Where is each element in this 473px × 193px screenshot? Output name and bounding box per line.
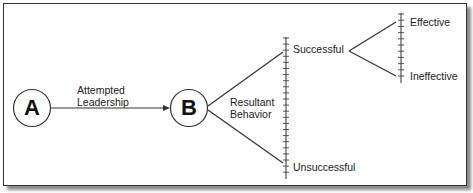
outcome-ineffective: Ineffective — [410, 70, 458, 82]
branch-label-resultant: Resultant — [230, 96, 274, 108]
outcome-effective: Effective — [410, 16, 450, 28]
node-b: B — [170, 89, 208, 127]
node-a: A — [13, 89, 51, 127]
branch-label-behavior: Behavior — [230, 108, 271, 120]
edge-label-leadership: Leadership — [77, 96, 129, 108]
outcome-unsuccessful: Unsuccessful — [293, 161, 355, 173]
outcome-successful: Successful — [293, 43, 344, 55]
edge-label-attempted: Attempted — [77, 84, 125, 96]
arrow-head — [163, 105, 170, 111]
